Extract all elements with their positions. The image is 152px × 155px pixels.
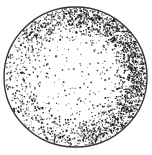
stipple-disk-figure (0, 0, 152, 155)
